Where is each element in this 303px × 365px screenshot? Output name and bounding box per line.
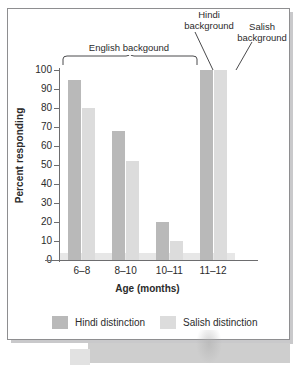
y-axis-tick-label: 50 [24, 160, 52, 170]
scan-artifact-smudge [196, 330, 222, 364]
annotation-hindi-background: Hindi background [183, 10, 235, 31]
y-axis-title: Percent responding [14, 96, 25, 216]
salish-background-leader-line-icon [228, 42, 268, 74]
x-axis-line [45, 260, 258, 261]
y-axis-tick-label: 90 [24, 84, 52, 94]
y-axis-tick-labels: 0102030405060708090100 [20, 0, 52, 365]
legend-swatch-hindi [52, 316, 68, 329]
y-axis-tick-label: 40 [24, 179, 52, 189]
english-background-brace-icon [62, 55, 198, 65]
scan-artifact-band [88, 343, 290, 363]
y-axis-tick-label: 100 [24, 65, 52, 75]
chart-legend: Hindi distinctionSalish distinction [52, 316, 262, 332]
bar-salish [170, 241, 183, 260]
bar-hindi [156, 222, 169, 260]
bar-salish [82, 108, 95, 260]
y-axis-tick-label: 70 [24, 122, 52, 132]
y-axis-tick-label: 10 [24, 236, 52, 246]
bar-hindi [68, 80, 81, 261]
x-axis-tick-label: 10–11 [146, 265, 192, 276]
bar-hindi [200, 70, 213, 260]
annotation-salish-line1: Salish [249, 21, 275, 32]
bar-salish [126, 161, 139, 260]
frame-shadow-right [290, 12, 293, 344]
legend-item[interactable]: Salish distinction [160, 316, 257, 329]
legend-label: Salish distinction [183, 317, 257, 328]
y-axis-tick-mark [54, 260, 60, 261]
scan-artifact-band-secondary [70, 349, 90, 365]
bar-chart-figure: 0102030405060708090100 Percent respondin… [0, 0, 303, 365]
legend-swatch-salish [160, 316, 176, 329]
legend-item[interactable]: Hindi distinction [52, 316, 145, 329]
y-axis-tick-label: 80 [24, 103, 52, 113]
bar-salish [214, 70, 227, 260]
y-axis-tick-label: 30 [24, 198, 52, 208]
x-axis-tick-label: 8–10 [103, 265, 149, 276]
x-axis-tick-label: 6–8 [59, 265, 105, 276]
y-axis-tick-label: 60 [24, 141, 52, 151]
annotation-english-background: English backgound [75, 43, 183, 54]
x-axis-title: Age (months) [60, 283, 235, 294]
bar-hindi [112, 131, 125, 260]
x-axis-tick-label: 11–12 [190, 265, 236, 276]
legend-label: Hindi distinction [75, 317, 145, 328]
annotation-hindi-line2: background [184, 20, 234, 31]
annotation-hindi-line1: Hindi [198, 9, 220, 20]
plot-area [60, 70, 235, 260]
y-axis-tick-label: 20 [24, 217, 52, 227]
